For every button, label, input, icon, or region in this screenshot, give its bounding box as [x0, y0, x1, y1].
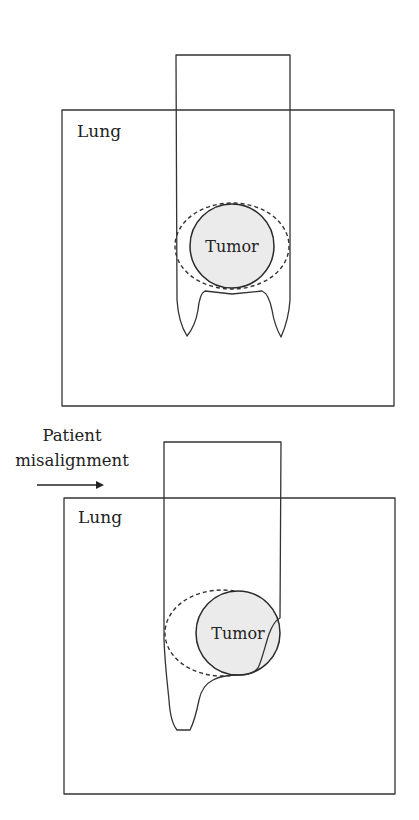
- arrow-right-icon: [37, 481, 104, 489]
- annotation-line1: Patient: [42, 426, 101, 445]
- dose-contour: [164, 442, 281, 730]
- dose-diagram: Lung Tumor Patient misalignment Lung Tum…: [0, 0, 419, 820]
- lung-label: Lung: [77, 121, 121, 141]
- annotation-line2: misalignment: [15, 451, 129, 470]
- dose-contour: [176, 55, 290, 337]
- panel-aligned: Lung Tumor: [62, 55, 394, 406]
- lung-label: Lung: [78, 507, 122, 527]
- tumor-label: Tumor: [211, 624, 265, 643]
- panel-misaligned: Lung Tumor: [64, 442, 395, 794]
- misalignment-annotation: Patient misalignment: [15, 426, 129, 489]
- tumor-label: Tumor: [205, 237, 259, 256]
